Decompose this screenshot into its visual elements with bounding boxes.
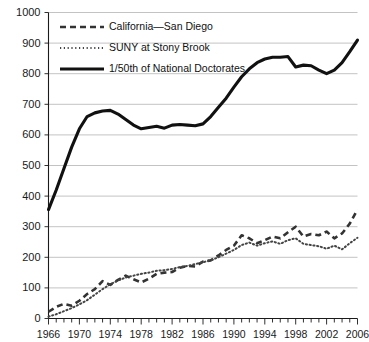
legend-label: California—San Diego: [109, 20, 213, 32]
x-tick-label: 1974: [99, 328, 123, 340]
x-tick-label: 1998: [284, 328, 308, 340]
x-tick-label: 2006: [346, 328, 369, 340]
x-axis-tick-labels: 1966197019741978198219861990199419982002…: [37, 328, 369, 340]
legend-label: SUNY at Stony Brook: [109, 41, 211, 53]
chart-legend: California—San DiegoSUNY at Stony Brook1…: [60, 20, 245, 74]
y-tick-label: 600: [22, 128, 40, 140]
legend-label: 1/50th of National Doctorates: [109, 62, 245, 74]
x-tick-label: 2002: [315, 328, 339, 340]
x-tick-label: 1986: [191, 328, 215, 340]
y-tick-label: 300: [22, 220, 40, 232]
y-axis-tick-marks: [45, 13, 49, 319]
y-tick-label: 700: [22, 98, 40, 110]
y-tick-label: 0: [34, 312, 40, 324]
x-tick-label: 1966: [37, 328, 61, 340]
x-tick-label: 1982: [160, 328, 184, 340]
y-tick-label: 800: [22, 67, 40, 79]
y-tick-label: 900: [22, 37, 40, 49]
x-tick-label: 1994: [253, 328, 277, 340]
series-line-1: [49, 238, 358, 317]
series-line-0: [49, 210, 358, 312]
x-tick-label: 1970: [68, 328, 92, 340]
y-tick-label: 500: [22, 159, 40, 171]
data-series: [49, 40, 358, 317]
y-axis-tick-labels: 01002003004005006007008009001000: [16, 6, 40, 324]
gridlines: [49, 13, 358, 288]
x-tick-label: 1978: [130, 328, 154, 340]
y-tick-label: 200: [22, 251, 40, 263]
y-tick-label: 400: [22, 190, 40, 202]
line-chart: 01002003004005006007008009001000 1966197…: [0, 0, 369, 342]
y-tick-label: 100: [22, 281, 40, 293]
chart-container: 01002003004005006007008009001000 1966197…: [0, 0, 369, 342]
x-axis-tick-marks: [49, 319, 358, 325]
y-tick-label: 1000: [16, 6, 40, 18]
x-tick-label: 1990: [222, 328, 246, 340]
